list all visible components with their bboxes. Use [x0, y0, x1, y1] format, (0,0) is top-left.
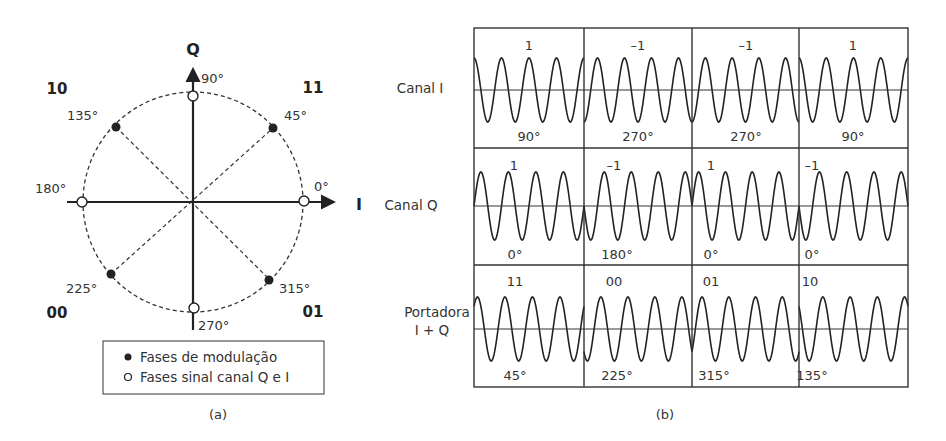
point-180 — [77, 197, 87, 207]
legend-hollow-label: Fases sinal canal Q e I — [140, 369, 289, 385]
point-45 — [269, 124, 278, 133]
cell-top-r2c3: 10 — [802, 274, 819, 289]
quadrant-code-10: 10 — [47, 80, 68, 98]
row-label-canal-i: Canal I — [397, 80, 444, 96]
phase-label-45: 45° — [284, 108, 307, 123]
row-label-canal-q: Canal Q — [384, 197, 437, 213]
cell-bottom-r2c1: 225° — [601, 368, 632, 383]
cell-bottom-r2c0: 45° — [503, 368, 526, 383]
row-label-portadora: Portadora — [404, 304, 470, 320]
phase-label-135: 135° — [67, 108, 98, 123]
cell-top-r1c3: –1 — [805, 158, 820, 173]
cell-top-r1c1: –1 — [607, 158, 622, 173]
cell-bottom-r1c1: 180° — [601, 247, 632, 262]
cell-top-r2c0: 11 — [507, 274, 524, 289]
quadrant-code-01: 01 — [303, 303, 324, 321]
legend-filled-label: Fases de modulação — [140, 349, 277, 365]
phase-label-0: 0° — [314, 179, 329, 194]
cell-bottom-r1c2: 0° — [704, 247, 719, 262]
q-axis-label: Q — [186, 40, 200, 59]
phase-label-315: 315° — [279, 281, 310, 296]
hollow-dot-icon — [125, 374, 132, 381]
caption-b: (b) — [656, 407, 674, 422]
constellation-diagram: Q I 10 11 00 01 90° 0° 180° 270° 45° 135… — [35, 40, 362, 422]
cell-bottom-r0c3: 90° — [841, 129, 864, 144]
cell-bottom-r0c2: 270° — [730, 129, 761, 144]
phase-label-90: 90° — [201, 71, 224, 86]
point-225 — [107, 270, 116, 279]
cell-top-r0c3: 1 — [849, 38, 857, 53]
cell-bottom-r1c0: 0° — [508, 247, 523, 262]
point-315 — [265, 276, 274, 285]
quadrant-code-11: 11 — [303, 79, 324, 97]
point-270 — [189, 303, 199, 313]
waveform-grid: Canal I Canal Q Portadora I + Q 1 –1 –1 … — [384, 28, 908, 422]
cell-top-r1c2: 1 — [707, 158, 715, 173]
cell-top-r2c2: 01 — [703, 274, 720, 289]
filled-dot-icon — [125, 354, 132, 361]
point-135 — [112, 123, 121, 132]
cell-bottom-r1c3: 0° — [805, 247, 820, 262]
cell-top-r2c1: 00 — [606, 274, 623, 289]
cell-top-r0c0: 1 — [525, 38, 533, 53]
cell-bottom-r0c1: 270° — [622, 129, 653, 144]
point-0 — [299, 196, 309, 206]
caption-a: (a) — [209, 407, 227, 422]
row-label-i-plus-q: I + Q — [415, 322, 450, 338]
qpsk-figure: Q I 10 11 00 01 90° 0° 180° 270° 45° 135… — [0, 0, 946, 441]
phase-label-225: 225° — [66, 281, 97, 296]
cell-bottom-r2c3: 135° — [796, 368, 827, 383]
cell-bottom-r2c2: 315° — [698, 368, 729, 383]
waveforms — [474, 58, 908, 361]
cell-top-r0c2: –1 — [739, 38, 754, 53]
cell-bottom-r0c0: 90° — [517, 129, 540, 144]
phase-label-180: 180° — [35, 181, 66, 196]
quadrant-code-00: 00 — [47, 304, 68, 322]
legend: Fases de modulação Fases sinal canal Q e… — [103, 341, 324, 394]
cell-top-r1c0: 1 — [510, 158, 518, 173]
point-90 — [188, 91, 198, 101]
cell-top-r0c1: –1 — [631, 38, 646, 53]
phase-label-270: 270° — [198, 318, 229, 333]
i-axis-label: I — [356, 195, 362, 214]
